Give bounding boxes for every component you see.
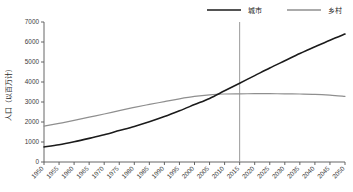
x-tick-label: 1985 xyxy=(135,164,150,179)
y-tick-label: 3000 xyxy=(25,98,40,105)
x-tick-label: 1980 xyxy=(120,164,135,179)
x-tick-label: 1960 xyxy=(60,164,75,179)
x-tick-label: 2045 xyxy=(316,164,331,179)
y-tick-label: 1000 xyxy=(25,138,40,145)
x-tick-label: 2020 xyxy=(240,164,255,179)
x-tick-label: 2050 xyxy=(331,164,346,179)
population-line-chart: 城市 乡村 人口（以百万计） 0100020003000400050006000… xyxy=(0,0,353,192)
x-tick-label: 1965 xyxy=(75,164,90,179)
legend-label-rural: 乡村 xyxy=(328,6,342,15)
y-axis-title: 人口（以百万计） xyxy=(4,65,13,121)
x-tick-label: 1955 xyxy=(45,164,60,179)
series-line-urban xyxy=(44,34,345,147)
x-tick-label: 1990 xyxy=(150,164,165,179)
y-tick-label: 5000 xyxy=(25,58,40,65)
chart-canvas: 城市 乡村 人口（以百万计） 0100020003000400050006000… xyxy=(0,0,353,192)
x-tick-label: 2040 xyxy=(301,164,316,179)
y-tick-label: 4000 xyxy=(25,78,40,85)
y-tick-label: 7000 xyxy=(25,18,40,25)
y-tick-label: 2000 xyxy=(25,118,40,125)
x-tick-label: 2000 xyxy=(180,164,195,179)
x-tick-label: 2010 xyxy=(210,164,225,179)
chart-legend: 城市 乡村 xyxy=(207,6,342,15)
x-tick-label: 2015 xyxy=(225,164,240,179)
legend-label-urban: 城市 xyxy=(248,6,262,15)
x-tick-label: 1950 xyxy=(30,164,45,179)
x-tick-label: 2030 xyxy=(271,164,286,179)
y-tick-label: 0 xyxy=(35,158,39,165)
y-tick-label: 6000 xyxy=(25,38,40,45)
y-axis-ticks: 01000200030004000500060007000 xyxy=(25,18,44,165)
x-axis-ticks: 1950195519601965197019751980198519901995… xyxy=(30,162,346,180)
x-tick-label: 1995 xyxy=(165,164,180,179)
x-tick-label: 2005 xyxy=(195,164,210,179)
x-tick-label: 2025 xyxy=(255,164,270,179)
series-line-rural xyxy=(44,94,345,127)
x-tick-label: 2035 xyxy=(286,164,301,179)
x-tick-label: 1970 xyxy=(90,164,105,179)
x-tick-label: 1975 xyxy=(105,164,120,179)
chart-series xyxy=(44,34,345,147)
